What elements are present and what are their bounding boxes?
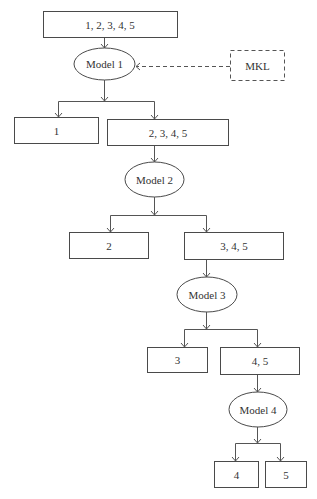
- node-set45-label: 4, 5: [252, 355, 269, 367]
- node-set345-label: 3, 4, 5: [220, 240, 248, 252]
- node-root-label: 1, 2, 3, 4, 5: [85, 19, 135, 31]
- edge-model3-branch: [181, 312, 261, 347]
- node-set2345: 2, 3, 4, 5: [108, 120, 229, 146]
- node-mkl-label: MKL: [245, 60, 270, 72]
- flowchart-diagram: 1, 2, 3, 4, 5 Model 1 MKL 1 2, 3, 4, 5: [0, 0, 317, 499]
- node-leaf1: 1: [15, 118, 99, 144]
- edge-set345-model3: [203, 260, 210, 277]
- edge-mkl-model1: [136, 63, 230, 70]
- node-model3: Model 3: [177, 277, 237, 312]
- node-set345: 3, 4, 5: [185, 233, 284, 260]
- node-model3-label: Model 3: [189, 289, 226, 301]
- node-leaf3-label: 3: [175, 354, 181, 366]
- node-leaf4: 4: [215, 462, 259, 488]
- edge-model1-branch: [55, 80, 158, 119]
- node-root: 1, 2, 3, 4, 5: [44, 12, 178, 38]
- node-set45: 4, 5: [221, 348, 300, 375]
- node-model2-label: Model 2: [136, 174, 173, 186]
- node-model1: Model 1: [74, 48, 135, 80]
- node-model4: Model 4: [229, 392, 287, 427]
- node-leaf2-label: 2: [106, 240, 112, 252]
- node-leaf5: 5: [266, 462, 307, 488]
- edge-model2-branch: [107, 197, 210, 232]
- node-leaf5-label: 5: [283, 469, 289, 481]
- node-leaf2: 2: [70, 233, 149, 259]
- edge-set45-model4: [254, 375, 261, 392]
- node-leaf4-label: 4: [234, 469, 240, 481]
- node-set2345-label: 2, 3, 4, 5: [149, 127, 188, 139]
- edge-model4-branch: [232, 427, 284, 461]
- node-model4-label: Model 4: [240, 404, 277, 416]
- edge-set2345-model2: [151, 146, 158, 162]
- node-model1-label: Model 1: [86, 58, 123, 70]
- node-leaf1-label: 1: [54, 125, 60, 137]
- node-model2: Model 2: [125, 162, 184, 197]
- node-leaf3: 3: [148, 348, 208, 373]
- node-mkl: MKL: [231, 51, 285, 81]
- edge-root-model1: [101, 38, 108, 48]
